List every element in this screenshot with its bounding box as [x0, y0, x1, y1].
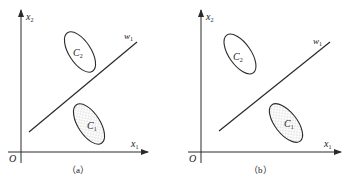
y-axis-label: x2	[205, 11, 213, 23]
panel-b: O x2 x1 w1 C2 C1 （b）	[188, 10, 341, 175]
x-axis-label: x1	[323, 138, 331, 150]
class-c2-region	[218, 29, 262, 79]
figure: O x2 x1 w1 C2 C1 （a） O x2 x1 w1 C2 C1 （b…	[0, 0, 349, 183]
panel-caption: （b）	[249, 165, 272, 175]
origin-label: O	[9, 153, 16, 164]
origin-label: O	[189, 153, 196, 164]
boundary-label: w1	[124, 31, 133, 42]
class-c2-region	[58, 27, 102, 78]
y-axis-label: x2	[25, 11, 33, 23]
panel-a: O x2 x1 w1 C2 C1 （a）	[8, 10, 148, 175]
panel-caption: （a）	[67, 165, 89, 175]
boundary-label: w1	[313, 36, 322, 47]
x-axis-label: x1	[130, 138, 138, 150]
class-c2-label: C2	[233, 51, 243, 63]
class-c2-label: C2	[73, 47, 83, 59]
